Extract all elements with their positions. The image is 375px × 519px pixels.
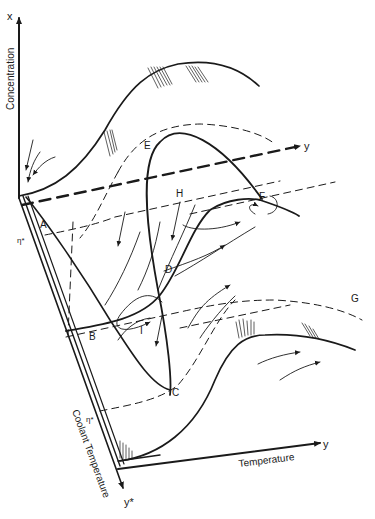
x-axis-symbol: x xyxy=(7,10,13,22)
point-D: D xyxy=(165,264,172,275)
top-surface-curve xyxy=(19,62,259,196)
y-star-symbol: y* xyxy=(124,496,135,508)
eta-star-lower: η* xyxy=(86,415,94,424)
eta-star-upper: η* xyxy=(17,236,25,245)
point-labels: A B C D E F G H I xyxy=(40,140,359,398)
point-A: A xyxy=(40,219,47,230)
temperature-label: Temperature xyxy=(238,451,295,469)
point-C: C xyxy=(172,387,179,398)
dashed-lower xyxy=(100,300,235,411)
point-H: H xyxy=(176,188,183,199)
dashed-line-A xyxy=(45,181,280,235)
temperature-y-symbol: y xyxy=(323,438,329,450)
point-B: B xyxy=(89,331,96,342)
diagram-canvas: x Concentration y y Temperature Coolant … xyxy=(0,0,375,519)
fold-curve-EDC xyxy=(147,133,262,395)
point-E: E xyxy=(144,140,151,151)
point-F: F xyxy=(259,191,265,202)
hatching-top xyxy=(104,66,208,156)
back-y-symbol: y xyxy=(304,140,310,152)
point-G: G xyxy=(351,293,359,304)
coolant-temperature-axis xyxy=(19,196,124,488)
curve-B-D-F xyxy=(66,199,299,331)
point-I: I xyxy=(140,325,143,336)
concentration-label: Concentration xyxy=(5,48,16,110)
hatching-lower xyxy=(120,319,319,459)
trajectories xyxy=(26,140,320,380)
dashed-upper-fold xyxy=(118,124,275,172)
